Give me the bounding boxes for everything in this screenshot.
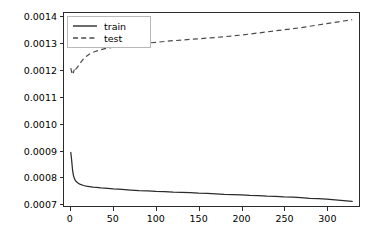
- x-tick-label: 250: [275, 213, 293, 224]
- x-tick-label: 100: [147, 213, 165, 224]
- y-tick-label: 0.0013: [24, 37, 57, 48]
- y-tick-mark: [60, 177, 64, 178]
- x-tick-mark: [70, 207, 71, 211]
- y-axis-tick-labels: 0.00070.00080.00090.00100.00110.00120.00…: [0, 0, 57, 245]
- y-tick-label: 0.0012: [24, 64, 57, 75]
- y-tick-label: 0.0009: [24, 145, 57, 156]
- y-tick-mark: [60, 151, 64, 152]
- legend-entry-test: test: [72, 32, 146, 44]
- y-tick-label: 0.0014: [24, 11, 57, 22]
- x-tick-label: 50: [107, 213, 119, 224]
- y-tick-label: 0.0007: [24, 199, 57, 210]
- legend-box: train test: [67, 16, 151, 48]
- legend-label-train: train: [104, 21, 126, 32]
- y-tick-label: 0.0011: [24, 91, 57, 102]
- legend-label-test: test: [104, 33, 122, 44]
- y-tick-mark: [60, 70, 64, 71]
- x-tick-label: 300: [318, 213, 336, 224]
- y-tick-mark: [60, 204, 64, 205]
- line-series-train: [71, 152, 352, 201]
- x-tick-mark: [242, 207, 243, 211]
- legend-entry-train: train: [72, 20, 146, 32]
- x-tick-mark: [156, 207, 157, 211]
- legend-line-sample-dashed-icon: [72, 33, 98, 43]
- x-tick-mark: [284, 207, 285, 211]
- y-tick-label: 0.0008: [24, 172, 57, 183]
- x-tick-label: 200: [232, 213, 250, 224]
- matplotlib-figure: 0.00070.00080.00090.00100.00110.00120.00…: [0, 0, 378, 245]
- y-tick-mark: [60, 43, 64, 44]
- x-tick-mark: [327, 207, 328, 211]
- x-tick-label: 0: [67, 213, 73, 224]
- y-tick-label: 0.0010: [24, 118, 57, 129]
- y-tick-mark: [60, 97, 64, 98]
- y-tick-mark: [60, 124, 64, 125]
- y-tick-mark: [60, 16, 64, 17]
- x-tick-label: 150: [190, 213, 208, 224]
- legend-line-sample-solid-icon: [72, 21, 98, 31]
- x-tick-mark: [113, 207, 114, 211]
- x-tick-mark: [199, 207, 200, 211]
